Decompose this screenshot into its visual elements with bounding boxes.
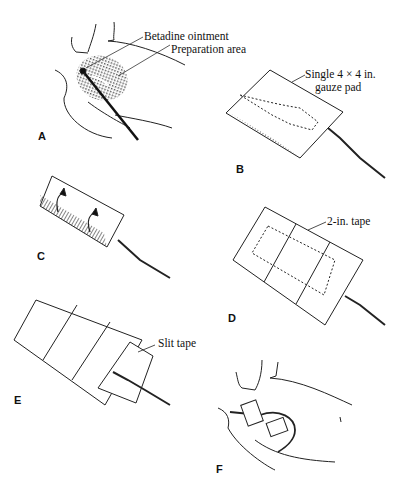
panel-e-drawing bbox=[14, 300, 170, 405]
label-slit-tape: Slit tape bbox=[158, 337, 196, 350]
panel-label-e: E bbox=[14, 394, 21, 406]
panel-label-a: A bbox=[38, 130, 46, 142]
panel-label-b: B bbox=[236, 163, 244, 175]
label-2in-tape: 2-in. tape bbox=[327, 215, 370, 228]
label-betadine-ointment: Betadine ointment bbox=[144, 30, 229, 43]
label-preparation-area: Preparation area bbox=[171, 43, 246, 56]
label-gauze-pad: gauze pad bbox=[315, 81, 361, 94]
panel-f-drawing bbox=[218, 360, 352, 470]
panel-label-d: D bbox=[228, 312, 236, 324]
panel-c-drawing bbox=[40, 176, 170, 278]
panel-label-f: F bbox=[216, 463, 223, 475]
label-gauze-pad-size: Single 4 × 4 in. bbox=[305, 68, 376, 81]
panel-label-c: C bbox=[37, 250, 45, 262]
